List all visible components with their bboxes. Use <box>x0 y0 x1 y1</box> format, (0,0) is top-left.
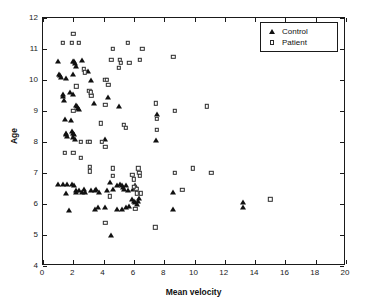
x-tick <box>43 260 44 264</box>
data-point-patient <box>140 47 144 51</box>
y-tick-label: 7 <box>20 168 38 177</box>
data-point-control <box>170 189 176 194</box>
x-tick-label: 16 <box>280 268 289 277</box>
data-point-patient <box>110 174 114 178</box>
data-point-patient <box>109 58 113 62</box>
data-point-patient <box>79 155 83 159</box>
data-point-patient <box>110 166 114 170</box>
data-point-patient <box>63 151 67 155</box>
x-tick-label: 4 <box>100 268 104 277</box>
x-tick <box>285 260 286 264</box>
y-tick-right <box>340 266 344 267</box>
data-point-control <box>102 205 108 210</box>
legend: Control Patient <box>260 22 338 52</box>
data-point-patient <box>103 220 107 224</box>
data-point-patient <box>127 61 131 65</box>
data-point-patient <box>123 126 127 130</box>
data-point-patient <box>98 121 102 125</box>
data-point-patient <box>138 58 142 62</box>
data-point-patient <box>154 101 158 105</box>
scatter-plot-figure: 02468101214161820 456789101112 Mean velo… <box>0 0 369 308</box>
x-tick-top <box>134 18 135 22</box>
y-tick-label: 11 <box>20 44 38 53</box>
y-tick-label: 6 <box>20 199 38 208</box>
legend-item-patient: Patient <box>265 37 333 48</box>
open-square-icon <box>265 40 279 44</box>
data-point-patient <box>60 41 64 45</box>
data-point-control <box>79 57 85 62</box>
data-point-control <box>63 191 69 196</box>
data-point-control <box>108 233 114 238</box>
data-point-patient <box>154 127 158 131</box>
data-point-control <box>72 136 78 141</box>
x-tick <box>164 260 165 264</box>
y-tick <box>43 266 47 267</box>
data-point-patient <box>117 65 121 69</box>
data-point-patient <box>106 82 110 86</box>
y-tick-right <box>340 142 344 143</box>
y-axis-label: Age <box>9 116 19 156</box>
data-point-patient <box>268 197 272 201</box>
x-tick-top <box>346 18 347 22</box>
data-point-patient <box>135 191 139 195</box>
data-point-patient <box>88 140 92 144</box>
data-point-patient <box>76 41 80 45</box>
data-point-patient <box>180 188 184 192</box>
data-point-patient <box>71 151 75 155</box>
data-point-patient <box>89 93 93 97</box>
data-point-patient <box>133 206 137 210</box>
data-point-control <box>126 203 132 208</box>
data-point-patient <box>103 103 107 107</box>
x-tick-label: 6 <box>131 268 135 277</box>
y-tick <box>43 49 47 50</box>
data-point-control <box>240 205 246 210</box>
data-point-control <box>73 102 79 107</box>
data-points-layer <box>43 18 344 264</box>
x-axis-label: Mean velocity <box>42 287 345 297</box>
data-point-control <box>91 101 97 106</box>
x-tick-label: 20 <box>341 268 350 277</box>
y-tick-right <box>340 235 344 236</box>
data-point-patient <box>138 174 142 178</box>
y-tick-right <box>340 204 344 205</box>
data-point-patient <box>173 109 177 113</box>
y-tick <box>43 142 47 143</box>
x-tick-top <box>104 18 105 22</box>
data-point-patient <box>173 171 177 175</box>
y-tick-right <box>340 173 344 174</box>
x-tick-label: 12 <box>219 268 228 277</box>
data-point-control <box>153 138 159 143</box>
data-point-patient <box>70 41 74 45</box>
y-tick-right <box>340 80 344 81</box>
y-tick-label: 8 <box>20 137 38 146</box>
x-tick-top <box>225 18 226 22</box>
data-point-patient <box>110 47 114 51</box>
data-point-control <box>96 189 102 194</box>
y-tick <box>43 18 47 19</box>
data-point-control <box>116 104 122 109</box>
x-tick-label: 10 <box>189 268 198 277</box>
y-tick-right <box>340 49 344 50</box>
data-point-patient <box>71 109 75 113</box>
y-tick-label: 5 <box>20 230 38 239</box>
data-point-patient <box>153 225 157 229</box>
legend-label-control: Control <box>279 27 308 36</box>
data-point-control <box>63 76 69 81</box>
data-point-control <box>92 206 98 211</box>
x-tick-top <box>73 18 74 22</box>
data-point-control <box>70 91 76 96</box>
data-point-patient <box>171 55 175 59</box>
data-point-patient <box>107 194 111 198</box>
x-tick <box>255 260 256 264</box>
data-point-patient <box>79 140 83 144</box>
y-tick-label: 4 <box>20 261 38 270</box>
x-tick-top <box>195 18 196 22</box>
x-tick-label: 8 <box>161 268 165 277</box>
filled-triangle-icon <box>265 29 279 34</box>
data-point-patient <box>103 144 107 148</box>
data-point-control <box>105 95 111 100</box>
y-tick <box>43 80 47 81</box>
x-tick <box>104 260 105 264</box>
y-tick-right <box>340 111 344 112</box>
data-point-patient <box>204 104 208 108</box>
